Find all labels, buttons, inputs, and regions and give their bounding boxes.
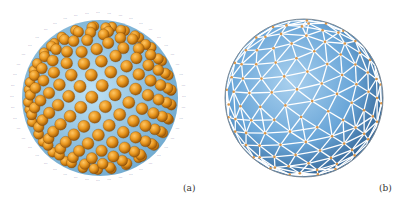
svg-text:···: ··· — [181, 83, 185, 88]
svg-text:···: ··· — [157, 35, 161, 40]
svg-text:···: ··· — [22, 52, 26, 57]
svg-text:···: ··· — [11, 83, 15, 88]
packed-spheres-illustration: ········································… — [0, 0, 204, 204]
triangulated-sphere-mesh — [204, 0, 408, 204]
svg-text:···: ··· — [129, 16, 133, 21]
svg-text:···: ··· — [44, 161, 48, 166]
svg-text:···: ··· — [107, 177, 111, 182]
svg-text:···: ··· — [63, 172, 67, 177]
svg-text:···: ··· — [22, 136, 26, 141]
svg-text:···: ··· — [35, 35, 39, 40]
svg-text:···: ··· — [63, 16, 67, 21]
svg-text:···: ··· — [118, 13, 122, 18]
svg-text:···: ··· — [17, 126, 21, 131]
svg-text:···: ··· — [96, 10, 100, 15]
svg-text:···: ··· — [139, 167, 143, 172]
svg-text:···: ··· — [157, 153, 161, 158]
svg-text:···: ··· — [85, 11, 89, 16]
svg-text:···: ··· — [53, 21, 57, 26]
svg-text:···: ··· — [164, 145, 168, 150]
svg-text:···: ··· — [74, 175, 78, 180]
svg-text:···: ··· — [171, 52, 175, 57]
svg-text:···: ··· — [179, 116, 183, 121]
svg-text:···: ··· — [164, 43, 168, 48]
svg-text:···: ··· — [176, 126, 180, 131]
panel-label-b: (b) — [379, 183, 392, 193]
svg-text:···: ··· — [13, 116, 17, 121]
svg-text:···: ··· — [179, 72, 183, 77]
svg-text:···: ··· — [182, 94, 186, 99]
svg-text:···: ··· — [85, 177, 89, 182]
svg-text:···: ··· — [35, 153, 39, 158]
svg-text:···: ··· — [107, 11, 111, 16]
svg-text:···: ··· — [171, 136, 175, 141]
svg-text:···: ··· — [139, 21, 143, 26]
svg-text:···: ··· — [44, 27, 48, 32]
svg-text:···: ··· — [148, 27, 152, 32]
svg-text:···: ··· — [28, 145, 32, 150]
svg-text:···: ··· — [118, 175, 122, 180]
svg-text:···: ··· — [17, 62, 21, 67]
svg-text:···: ··· — [181, 105, 185, 110]
svg-text:···: ··· — [13, 72, 17, 77]
panel-a: ········································… — [0, 0, 204, 204]
svg-text:···: ··· — [96, 178, 100, 183]
svg-text:···: ··· — [129, 172, 133, 177]
panel-label-a: (a) — [183, 183, 195, 193]
svg-text:···: ··· — [74, 13, 78, 18]
svg-text:···: ··· — [176, 62, 180, 67]
svg-text:···: ··· — [28, 43, 32, 48]
svg-text:···: ··· — [11, 105, 15, 110]
svg-text:···: ··· — [10, 94, 14, 99]
svg-text:···: ··· — [148, 161, 152, 166]
panel-b: (b) — [204, 0, 408, 204]
svg-text:···: ··· — [53, 167, 57, 172]
